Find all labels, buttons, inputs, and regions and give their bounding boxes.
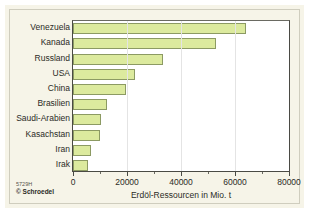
- bar: [73, 84, 126, 95]
- bar: [73, 114, 101, 125]
- bar-row: [73, 160, 88, 171]
- credit-publisher: © Schroedel: [16, 188, 54, 195]
- credit-block: 5729H © Schroedel: [16, 181, 54, 195]
- bar-row: [73, 38, 216, 49]
- bar-row: [73, 23, 246, 34]
- category-axis: VenezuelaKanadaRusslandUSAChinaBrasilien…: [0, 20, 70, 172]
- bar: [73, 130, 100, 141]
- chart-figure: VenezuelaKanadaRusslandUSAChinaBrasilien…: [0, 0, 309, 213]
- x-tick-minor: [208, 172, 209, 174]
- category-label: Iran: [2, 144, 70, 155]
- bar-row: [73, 145, 91, 156]
- x-tick: [235, 172, 236, 176]
- bar-row: [73, 130, 100, 141]
- x-tick-label: 20000: [115, 177, 139, 187]
- x-tick-minor: [262, 172, 263, 174]
- category-label: Irak: [2, 159, 70, 170]
- gridline: [235, 21, 236, 171]
- x-tick: [289, 172, 290, 176]
- x-tick-minor: [100, 172, 101, 174]
- category-label: Kanada: [2, 37, 70, 48]
- bar: [73, 38, 216, 49]
- bar: [73, 54, 163, 65]
- category-label: Venezuela: [2, 22, 70, 33]
- plot-area: [72, 20, 290, 172]
- x-tick-label: 60000: [223, 177, 247, 187]
- x-tick-label: 40000: [169, 177, 193, 187]
- gridline: [127, 21, 128, 171]
- x-tick: [127, 172, 128, 176]
- category-label: Russland: [2, 53, 70, 64]
- bar-row: [73, 69, 135, 80]
- gridline: [181, 21, 182, 171]
- credit-code: 5729H: [16, 181, 54, 188]
- bar-row: [73, 54, 163, 65]
- x-tick: [73, 172, 74, 176]
- category-label: China: [2, 83, 70, 94]
- bar: [73, 99, 107, 110]
- category-label: USA: [2, 68, 70, 79]
- category-label: Brasilien: [2, 98, 70, 109]
- x-tick-minor: [154, 172, 155, 174]
- x-tick-label: 80000: [277, 177, 301, 187]
- x-tick: [181, 172, 182, 176]
- x-tick-label: 0: [71, 177, 76, 187]
- bar-row: [73, 114, 101, 125]
- bar-row: [73, 99, 107, 110]
- bar: [73, 145, 91, 156]
- bar-row: [73, 84, 126, 95]
- bar: [73, 69, 135, 80]
- bar: [73, 23, 246, 34]
- bar: [73, 160, 88, 171]
- category-label: Saudi-Arabien: [2, 113, 70, 124]
- category-label: Kasachstan: [2, 129, 70, 140]
- x-axis-title: Erdöl-Ressourcen in Mio. t: [72, 190, 290, 200]
